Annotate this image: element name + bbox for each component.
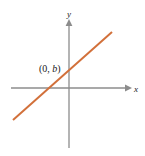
graph-canvas: y x (0, b) (0, 0, 145, 156)
y-intercept-label-suffix: ) (57, 63, 60, 75)
x-axis-label: x (133, 84, 138, 94)
y-intercept-label-prefix: (0, (39, 63, 52, 75)
coordinate-plane-figure: y x (0, b) (0, 0, 145, 156)
y-intercept-label: (0, b) (39, 63, 61, 75)
y-axis-label: y (66, 9, 71, 19)
figure-background (0, 0, 145, 156)
